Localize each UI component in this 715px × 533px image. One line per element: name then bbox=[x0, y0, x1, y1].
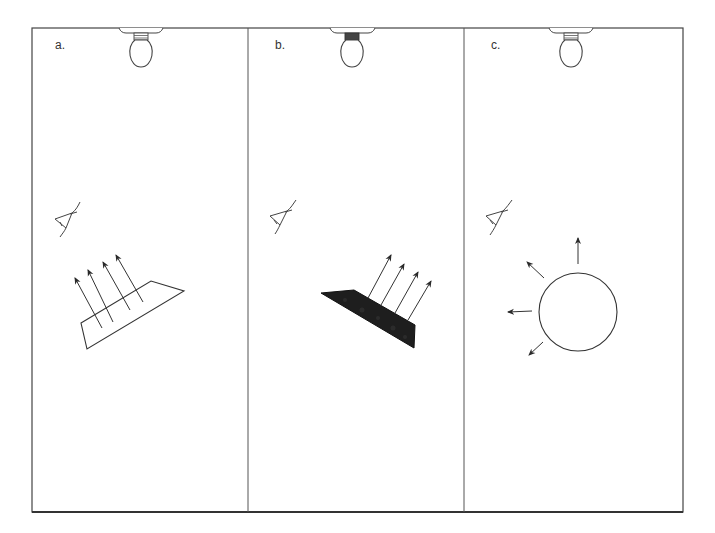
arrow-icon bbox=[508, 311, 532, 312]
panel-c-label: c. bbox=[491, 39, 500, 51]
arrow-icon bbox=[527, 262, 544, 278]
panel-a-label: a. bbox=[55, 39, 65, 51]
dark-surface bbox=[321, 290, 415, 348]
diagram-canvas bbox=[0, 0, 715, 533]
arrow-icon bbox=[408, 281, 431, 320]
light-bulb-icon bbox=[119, 28, 163, 67]
eye-icon bbox=[55, 202, 80, 237]
arrow-icon bbox=[529, 342, 543, 355]
panel-a bbox=[55, 28, 184, 349]
outer-frame bbox=[32, 28, 683, 512]
sphere-surface bbox=[539, 273, 617, 351]
eye-icon bbox=[486, 200, 512, 235]
arrow-icon bbox=[381, 264, 404, 305]
panel-b bbox=[270, 28, 431, 348]
arrow-icon bbox=[395, 272, 418, 313]
diagram-stage: a. b. c. bbox=[0, 0, 715, 533]
light-bulb-icon bbox=[549, 28, 593, 67]
arrow-icon bbox=[368, 255, 391, 298]
panel-c bbox=[486, 28, 617, 355]
light-surface bbox=[81, 281, 184, 349]
eye-icon bbox=[270, 200, 296, 234]
light-bulb-icon bbox=[330, 28, 375, 67]
panel-b-label: b. bbox=[275, 39, 285, 51]
